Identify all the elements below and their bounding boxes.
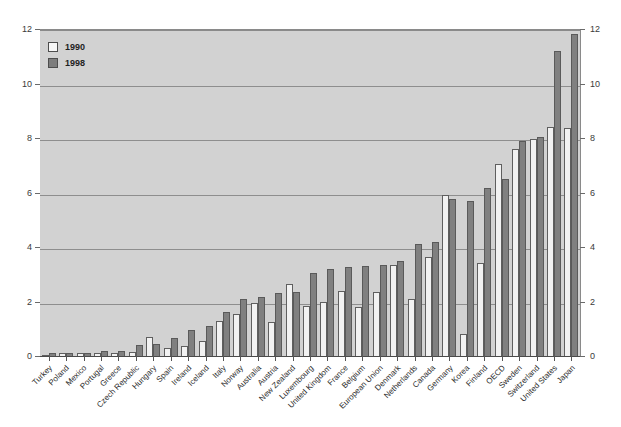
x-axis-tick-mark [362, 356, 363, 361]
bar-series-layer [40, 31, 580, 356]
bar-1990 [442, 195, 449, 356]
bar-group [110, 31, 127, 356]
bar-group [371, 31, 388, 356]
x-axis-tick-mark [554, 356, 555, 361]
bar-1998 [571, 34, 578, 356]
bar-1998 [223, 312, 230, 356]
bar-group [388, 31, 405, 356]
bar-1990 [564, 128, 571, 356]
bar-1990 [408, 299, 415, 356]
y-axis-tick-mark [35, 247, 40, 248]
y-axis-tick-label: 0 [27, 352, 32, 361]
bar-group [301, 31, 318, 356]
bar-1990 [355, 307, 362, 356]
x-axis-tick-mark [432, 356, 433, 361]
y-axis-tick-label: 8 [27, 134, 32, 143]
bar-group [423, 31, 440, 356]
x-axis-tick-mark [484, 356, 485, 361]
bar-1998 [345, 267, 352, 356]
bar-1990 [181, 346, 188, 356]
x-axis-tick-mark [310, 356, 311, 361]
bar-1998 [537, 137, 544, 356]
x-axis-label-slot: Canada [423, 362, 440, 427]
y-axis-tick-mark [35, 193, 40, 194]
x-axis-tick-mark [258, 356, 259, 361]
y-axis-tick-label: 4 [27, 243, 32, 252]
gray-square-swatch-icon [48, 58, 58, 68]
y-axis-tick-mark [580, 247, 585, 248]
x-axis-tick-mark [206, 356, 207, 361]
y-axis-right-labels: 024681012 [590, 0, 616, 427]
bar-group [510, 31, 527, 356]
legend-item-label: 1998 [65, 59, 85, 68]
y-axis-tick-mark [580, 84, 585, 85]
bar-group [162, 31, 179, 356]
bar-1998 [449, 199, 456, 356]
x-axis-tick-mark [153, 356, 154, 361]
y-axis-tick-label: 8 [590, 134, 595, 143]
bar-1998 [136, 345, 143, 356]
bar-group [493, 31, 510, 356]
bar-1998 [502, 179, 509, 356]
bar-group [458, 31, 475, 356]
x-axis-tick-mark [467, 356, 468, 361]
y-axis-left-labels: 024681012 [8, 0, 32, 427]
bar-1990 [164, 348, 171, 356]
white-square-swatch-icon [48, 42, 58, 52]
bar-1990 [233, 314, 240, 356]
bar-group [476, 31, 493, 356]
bar-group [336, 31, 353, 356]
x-axis-label-slot: United States [545, 362, 562, 427]
y-axis-tick-mark [35, 138, 40, 139]
bar-1990 [251, 303, 258, 356]
bar-group [145, 31, 162, 356]
x-axis-tick-mark [240, 356, 241, 361]
bar-1998 [519, 141, 526, 356]
bar-1998 [240, 299, 247, 356]
x-axis-tick-mark [537, 356, 538, 361]
bar-1998 [327, 269, 334, 356]
bar-1990 [216, 321, 223, 356]
y-axis-tick-label: 6 [27, 189, 32, 198]
x-axis-tick-mark [327, 356, 328, 361]
bar-1990 [286, 284, 293, 356]
bar-1990 [338, 291, 345, 356]
x-axis-label-slot: Finland [476, 362, 493, 427]
y-axis-tick-mark [580, 138, 585, 139]
y-axis-tick-mark [35, 302, 40, 303]
x-axis-tick-mark [171, 356, 172, 361]
bar-group [232, 31, 249, 356]
bar-1998 [380, 265, 387, 356]
legend-item: 1998 [48, 56, 85, 70]
bar-group [197, 31, 214, 356]
bar-1998 [293, 292, 300, 356]
bar-1998 [153, 344, 160, 356]
bar-group [563, 31, 580, 356]
bar-1990 [512, 149, 519, 356]
bar-1990 [303, 306, 310, 356]
bar-1998 [554, 51, 561, 356]
chart-legend: 1990 1998 [48, 40, 85, 72]
bar-group [441, 31, 458, 356]
x-axis-tick-mark [101, 356, 102, 361]
bar-1998 [467, 201, 474, 356]
bar-1998 [258, 297, 265, 356]
x-axis-category-labels: TurkeyPolandMexicoPortugalGreeceCzech Re… [40, 362, 580, 427]
x-axis-tick-mark [415, 356, 416, 361]
bar-1998 [275, 293, 282, 356]
bar-1998 [415, 244, 422, 356]
x-axis-tick-mark [345, 356, 346, 361]
x-axis-tick-mark [136, 356, 137, 361]
x-axis-tick-mark [519, 356, 520, 361]
bar-group [40, 31, 57, 356]
y-axis-tick-label: 10 [22, 80, 32, 89]
legend-item: 1990 [48, 40, 85, 54]
chart-figure: 024681012 024681012 TurkeyPolandMexicoPo… [0, 0, 621, 427]
bar-group [406, 31, 423, 356]
x-axis-tick-mark [293, 356, 294, 361]
bar-group [528, 31, 545, 356]
bar-1990 [373, 292, 380, 356]
y-axis-tick-mark [580, 356, 585, 357]
x-axis-tick-mark [66, 356, 67, 361]
y-axis-tick-mark [35, 356, 40, 357]
